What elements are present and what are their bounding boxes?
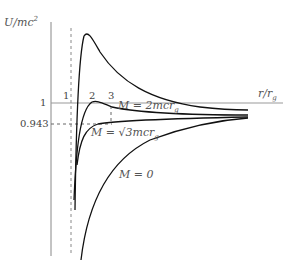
x-tick-1: 1	[63, 91, 69, 101]
label-m-sqrt3: M = √3mcrg	[91, 127, 159, 141]
y-axis-label: U/mc2	[4, 16, 38, 28]
x-tick-3: 3	[108, 91, 114, 101]
curve-large-m	[75, 34, 248, 210]
y-tick-1: 1	[40, 98, 46, 108]
y-tick-0943: 0.943	[20, 119, 49, 129]
x-tick-2: 2	[89, 91, 95, 101]
curve-m-2	[74, 101, 248, 200]
label-m-2: M = 2mcrg	[118, 100, 179, 114]
x-axis-label: r/rg	[258, 88, 277, 102]
label-m-0: M = 0	[119, 169, 153, 180]
